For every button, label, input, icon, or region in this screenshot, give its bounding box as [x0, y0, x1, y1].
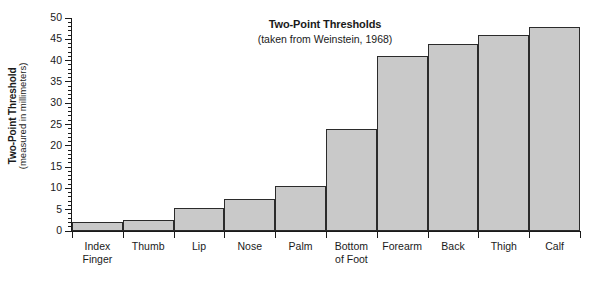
bars-layer: [72, 18, 580, 231]
y-tick-minor: [68, 69, 71, 70]
y-tick-minor: [68, 47, 71, 48]
bar: [123, 220, 174, 231]
x-axis-label: Forearm: [377, 240, 428, 253]
y-tick-minor: [68, 213, 71, 214]
y-tick-major: [65, 124, 71, 125]
bar: [478, 35, 529, 231]
y-tick-minor: [68, 94, 71, 95]
x-tick: [326, 232, 327, 238]
y-tick-label: 0: [56, 225, 62, 236]
y-tick-minor: [68, 35, 71, 36]
y-tick-minor: [68, 107, 71, 108]
y-tick-label: 30: [50, 97, 62, 108]
y-tick-major: [65, 103, 71, 104]
y-tick-label: 20: [50, 140, 62, 151]
x-tick: [478, 232, 479, 238]
y-tick-minor: [68, 192, 71, 193]
y-tick-minor: [68, 218, 71, 219]
y-tick-label: 15: [50, 161, 62, 172]
y-tick-label: 45: [50, 33, 62, 44]
y-tick-minor: [68, 179, 71, 180]
y-tick-major: [65, 167, 71, 168]
y-tick-minor: [68, 154, 71, 155]
y-tick-major: [65, 81, 71, 82]
y-tick-minor: [68, 64, 71, 65]
x-axis-label: Bottom of Foot: [326, 240, 377, 265]
x-axis-labels: Index FingerThumbLipNosePalmBottom of Fo…: [72, 240, 580, 280]
y-tick-minor: [68, 133, 71, 134]
y-tick-minor: [68, 201, 71, 202]
x-tick: [72, 232, 73, 238]
y-tick-minor: [68, 98, 71, 99]
y-tick-major: [65, 18, 71, 19]
y-tick-minor: [68, 43, 71, 44]
x-tick: [224, 232, 225, 238]
x-tick: [377, 232, 378, 238]
x-tick: [275, 232, 276, 238]
y-tick-minor: [68, 226, 71, 227]
x-axis-label: Back: [428, 240, 479, 253]
y-tick-minor: [68, 158, 71, 159]
bar: [529, 27, 580, 231]
y-tick-minor: [68, 222, 71, 223]
y-axis-title: Two-Point Threshold (measured in millime…: [0, 0, 36, 232]
y-tick-minor: [68, 184, 71, 185]
y-tick-minor: [68, 52, 71, 53]
y-tick-label: 40: [50, 55, 62, 66]
y-tick-label: 25: [50, 119, 62, 130]
y-tick-major: [65, 188, 71, 189]
x-axis-label: Lip: [174, 240, 225, 253]
y-tick-minor: [68, 205, 71, 206]
y-tick-minor: [68, 111, 71, 112]
bar: [224, 199, 275, 231]
x-axis-label: Palm: [275, 240, 326, 253]
bar: [377, 56, 428, 231]
y-tick-label: 5: [56, 204, 62, 215]
x-axis-label: Calf: [529, 240, 580, 253]
y-tick-minor: [68, 30, 71, 31]
x-tick: [174, 232, 175, 238]
y-tick-minor: [68, 175, 71, 176]
y-tick-minor: [68, 26, 71, 27]
bar: [428, 44, 479, 231]
x-tick: [580, 232, 581, 238]
y-tick-major: [65, 209, 71, 210]
y-tick-minor: [68, 162, 71, 163]
bar: [326, 129, 377, 231]
two-point-thresholds-chart: Two-Point Threshold (measured in millime…: [0, 0, 604, 285]
y-tick-minor: [68, 77, 71, 78]
y-tick-minor: [68, 137, 71, 138]
y-axis-title-sub: (measured in millimeters): [18, 63, 29, 170]
y-tick-major: [65, 145, 71, 146]
x-tick: [428, 232, 429, 238]
y-tick-minor: [68, 115, 71, 116]
y-tick-minor: [68, 90, 71, 91]
x-tick: [529, 232, 530, 238]
y-tick-minor: [68, 150, 71, 151]
y-tick-minor: [68, 120, 71, 121]
y-tick-major: [65, 231, 71, 232]
y-tick-minor: [68, 22, 71, 23]
y-tick-minor: [68, 73, 71, 74]
y-tick-minor: [68, 56, 71, 57]
y-tick-major: [65, 60, 71, 61]
y-tick-major: [65, 39, 71, 40]
y-tick-label: 50: [50, 12, 62, 23]
y-tick-label: 35: [50, 76, 62, 87]
x-axis-label: Nose: [224, 240, 275, 253]
x-axis-label: Thumb: [123, 240, 174, 253]
y-tick-minor: [68, 128, 71, 129]
y-tick-minor: [68, 171, 71, 172]
x-tick: [123, 232, 124, 238]
bar: [275, 186, 326, 231]
y-tick-minor: [68, 86, 71, 87]
y-tick-minor: [68, 196, 71, 197]
y-tick-minor: [68, 141, 71, 142]
x-axis-label: Index Finger: [72, 240, 123, 265]
y-tick-label: 10: [50, 182, 62, 193]
bar: [72, 222, 123, 231]
x-axis-label: Thigh: [478, 240, 529, 253]
bar: [174, 208, 225, 231]
